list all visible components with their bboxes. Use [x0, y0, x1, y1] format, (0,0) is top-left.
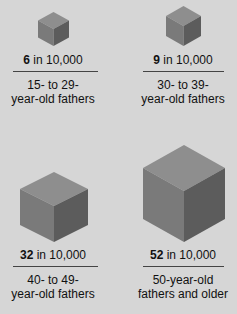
divider: [13, 71, 98, 72]
category-label: year-old fathers: [3, 92, 103, 106]
item-50-plus: 52 in 10,000 50-year-old fathers and old…: [133, 248, 233, 308]
cube-icon-15-29: [38, 12, 69, 46]
cube-icon-30-39: [166, 6, 201, 46]
divider: [143, 71, 224, 72]
category-label: fathers and older: [133, 287, 233, 301]
category-label: year-old fathers: [133, 92, 233, 106]
cube-icon-50-plus: [143, 145, 225, 242]
cube-icon-40-49: [20, 172, 88, 242]
item-15-29: 6 in 10,000 15- to 29- year-old fathers: [3, 53, 103, 113]
divider: [13, 266, 98, 267]
item-40-49: 32 in 10,000 40- to 49- year-old fathers: [3, 248, 103, 308]
divider: [143, 266, 224, 267]
stat-value: 6 in 10,000: [3, 53, 103, 67]
stat-value: 9 in 10,000: [133, 53, 233, 67]
category-label: 15- to 29-: [3, 78, 103, 92]
category-label: year-old fathers: [3, 287, 103, 301]
category-label: 30- to 39-: [133, 78, 233, 92]
stat-value: 52 in 10,000: [133, 248, 233, 262]
category-label: 40- to 49-: [3, 273, 103, 287]
stat-value: 32 in 10,000: [3, 248, 103, 262]
category-label: 50-year-old: [133, 273, 233, 287]
item-30-39: 9 in 10,000 30- to 39- year-old fathers: [133, 53, 233, 113]
